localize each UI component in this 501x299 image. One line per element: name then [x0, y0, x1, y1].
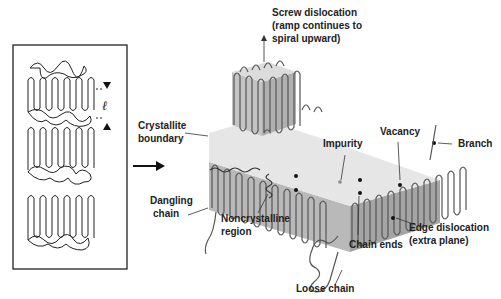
label-loose-chain: Loose chain — [296, 283, 354, 294]
label-edge-dislocation: Edge dislocation — [409, 222, 489, 233]
polymer-defects-diagram: ℓ — [0, 0, 501, 299]
label-branch: Branch — [458, 138, 492, 149]
lamellar-panel: ℓ — [13, 45, 127, 269]
label-noncrystalline-region-2: region — [221, 226, 252, 237]
label-vacancy: Vacancy — [380, 126, 420, 137]
label-dangling-chain-2: chain — [153, 208, 179, 219]
lamella-thickness-symbol: ℓ — [102, 98, 108, 113]
label-screw-dislocation-2: (ramp continues to — [272, 20, 362, 31]
label-noncrystalline-region: Noncrystalline — [221, 213, 290, 224]
label-dangling-chain: Dangling — [150, 195, 193, 206]
label-crystallite-boundary: Crystallite — [138, 120, 187, 131]
label-screw-dislocation: Screw dislocation — [272, 7, 357, 18]
label-crystallite-boundary-2: boundary — [138, 133, 184, 144]
label-chain-ends: Chain ends — [349, 239, 403, 250]
crystal-block — [205, 36, 466, 292]
label-edge-dislocation-2: (extra plane) — [409, 235, 468, 246]
label-impurity: Impurity — [323, 138, 363, 149]
label-screw-dislocation-3: spiral upward) — [272, 33, 340, 44]
